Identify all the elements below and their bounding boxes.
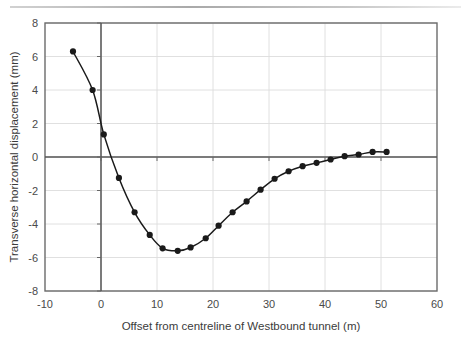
data-point-marker [300, 163, 306, 169]
data-point-marker [356, 151, 362, 157]
y-axis-title: Transverse horizontal displacement (mm) [8, 51, 20, 262]
x-tick-label: 40 [319, 298, 331, 310]
data-point-marker [384, 149, 390, 155]
y-tick-label: 6 [32, 51, 38, 63]
data-point-marker [370, 149, 376, 155]
zero-axis-lines [45, 23, 437, 291]
data-point-marker [244, 198, 250, 204]
x-axis-title: Offset from centreline of Westbound tunn… [122, 320, 361, 332]
data-point-marker [90, 87, 96, 93]
x-tick-labels: -100102030405060 [37, 298, 443, 310]
x-tick-label: 20 [207, 298, 219, 310]
y-tick-label: 8 [32, 17, 38, 29]
x-tick-label: -10 [37, 298, 53, 310]
data-point-marker [258, 187, 264, 193]
y-tick-label: 2 [32, 118, 38, 130]
y-tick-label: -2 [28, 185, 38, 197]
data-point-marker [203, 235, 209, 241]
y-tick-labels: 86420-2-4-6-8 [28, 17, 38, 297]
y-tick-label: -8 [28, 285, 38, 297]
y-tick-label: -4 [28, 218, 38, 230]
data-point-marker [160, 245, 166, 251]
x-tick-label: 50 [375, 298, 387, 310]
data-point-marker [132, 209, 138, 215]
y-tick-label: 4 [32, 84, 38, 96]
data-point-marker [272, 176, 278, 182]
data-point-marker [175, 248, 181, 254]
data-point-marker [342, 153, 348, 159]
data-series [70, 48, 390, 254]
data-point-marker [286, 168, 292, 174]
data-point-marker [188, 244, 194, 250]
data-point-marker [147, 232, 153, 238]
data-point-marker [216, 223, 222, 229]
y-tick-label: 0 [32, 151, 38, 163]
chart-container: -100102030405060 86420-2-4-6-8 Offset fr… [0, 0, 461, 341]
data-point-marker [314, 160, 320, 166]
x-tick-label: 60 [431, 298, 443, 310]
data-point-marker [116, 175, 122, 181]
data-point-marker [70, 48, 76, 54]
x-tick-label: 0 [98, 298, 104, 310]
data-point-marker [101, 131, 107, 137]
y-tick-label: -6 [28, 252, 38, 264]
data-point-marker [230, 209, 236, 215]
series-line [73, 51, 387, 250]
x-tick-label: 10 [151, 298, 163, 310]
data-point-marker [328, 156, 334, 162]
displacement-line-chart: -100102030405060 86420-2-4-6-8 Offset fr… [0, 0, 461, 341]
x-tick-label: 30 [263, 298, 275, 310]
